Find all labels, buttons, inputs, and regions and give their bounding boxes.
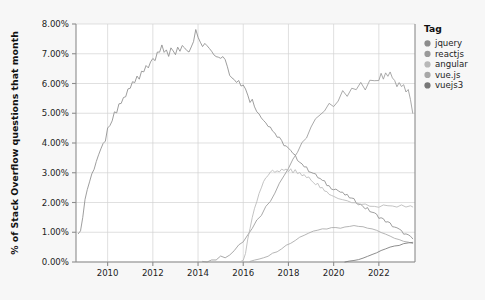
chart-container: 0.00%1.00%2.00%3.00%4.00%5.00%6.00%7.00%… xyxy=(0,0,485,300)
y-tick-label: 1.00% xyxy=(42,227,69,237)
y-tick-label: 3.00% xyxy=(42,168,69,178)
legend-swatch-jquery xyxy=(424,40,430,46)
y-tick-label: 8.00% xyxy=(42,19,69,29)
x-tick-label: 2022 xyxy=(368,268,390,278)
legend-swatch-vuejs xyxy=(424,72,430,78)
legend-title: Tag xyxy=(424,23,442,34)
y-tick-label: 4.00% xyxy=(42,138,69,148)
legend-label-jquery: jquery xyxy=(434,38,462,48)
legend-swatch-angular xyxy=(424,61,430,67)
x-tick-label: 2012 xyxy=(142,268,164,278)
x-tick-label: 2020 xyxy=(323,268,345,278)
trends-line-chart: 0.00%1.00%2.00%3.00%4.00%5.00%6.00%7.00%… xyxy=(0,0,485,300)
legend-label-vuejs: vue.js xyxy=(435,70,461,80)
x-tick-label: 2016 xyxy=(232,268,254,278)
x-tick-label: 2010 xyxy=(97,268,119,278)
legend-label-reactjs: reactjs xyxy=(435,49,464,59)
legend-label-vuejs3: vuejs3 xyxy=(435,80,463,90)
y-tick-label: 7.00% xyxy=(42,49,69,59)
legend-swatch-reactjs xyxy=(424,51,430,57)
y-tick-label: 5.00% xyxy=(42,108,69,118)
x-tick-label: 2018 xyxy=(278,268,300,278)
x-tick-label: 2014 xyxy=(187,268,209,278)
legend-label-angular: angular xyxy=(435,59,468,69)
y-axis-title: % of Stack Overflow questions that month xyxy=(9,31,20,255)
y-tick-label: 6.00% xyxy=(42,79,69,89)
y-tick-label: 2.00% xyxy=(42,198,69,208)
legend-swatch-vuejs3 xyxy=(424,82,430,88)
y-tick-label: 0.00% xyxy=(42,257,69,267)
